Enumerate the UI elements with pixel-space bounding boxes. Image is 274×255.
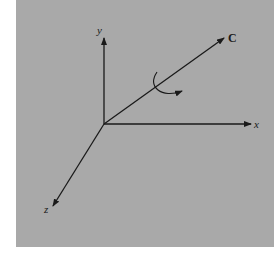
vector-c-label: C [228, 31, 237, 45]
vector-c [104, 38, 224, 124]
rotation-arrow-icon [154, 72, 182, 94]
coordinate-diagram: y x z C [0, 0, 274, 255]
x-axis-label: x [253, 118, 259, 130]
y-axis-label: y [96, 24, 102, 36]
z-axis-label: z [43, 203, 49, 215]
z-axis [53, 124, 104, 206]
